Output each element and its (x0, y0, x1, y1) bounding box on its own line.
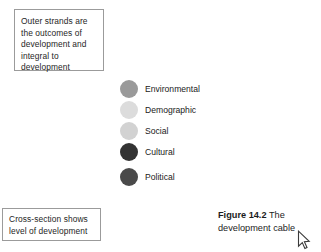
legend-label-environmental: Environmental (145, 84, 200, 94)
legend-swatch-demographic-icon (120, 101, 138, 119)
legend-item-cultural: Cultural (120, 142, 235, 163)
legend: Environmental Demographic Social Cultura… (120, 79, 235, 187)
callout-outer-strands-text: Outer strands are the outcomes of develo… (21, 16, 88, 72)
figure-canvas: Outer strands are the outcomes of develo… (0, 0, 321, 252)
callout-outer-strands: Outer strands are the outcomes of develo… (14, 9, 104, 71)
legend-swatch-environmental-icon (120, 80, 138, 98)
callout-cross-section-text: Cross-section shows level of development (9, 214, 88, 236)
figure-caption-label: Figure 14.2 (218, 210, 267, 220)
legend-label-demographic: Demographic (145, 105, 196, 115)
legend-item-social: Social (120, 121, 235, 142)
legend-label-political: Political (145, 172, 175, 182)
legend-swatch-cultural-icon (120, 143, 138, 161)
legend-swatch-social-icon (120, 122, 138, 140)
legend-label-cultural: Cultural (145, 147, 175, 157)
callout-cross-section: Cross-section shows level of development (2, 208, 101, 241)
legend-item-demographic: Demographic (120, 100, 235, 121)
figure-caption: Figure 14.2 The development cable (218, 209, 318, 236)
legend-label-social: Social (145, 126, 168, 136)
legend-item-political: Political (120, 167, 235, 187)
legend-swatch-political-icon (120, 168, 138, 186)
legend-item-environmental: Environmental (120, 79, 235, 100)
